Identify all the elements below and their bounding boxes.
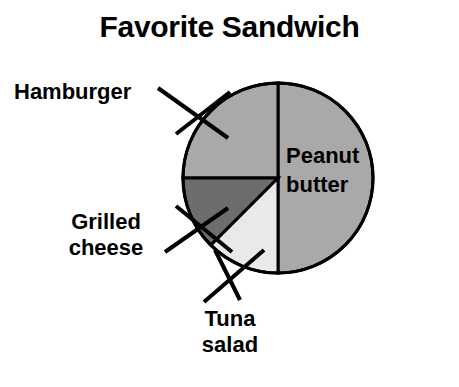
slice-label-tuna-salad-line1: Tuna [170, 306, 290, 332]
slice-label-tuna-salad-line2: salad [170, 332, 290, 358]
slice-label-hamburger-line1: Hamburger [14, 79, 131, 105]
slice-label-peanut-butter: Peanut butter [286, 141, 359, 199]
slice-label-hamburger: Hamburger [14, 79, 131, 105]
slice-label-grilled-cheese-line2: cheese [46, 235, 166, 261]
slice-label-tuna-salad: Tuna salad [170, 306, 290, 358]
slice-label-grilled-cheese-line1: Grilled [46, 209, 166, 235]
slice-label-peanut-butter-line1: Peanut [286, 141, 359, 170]
pie-chart-figure: Favorite Sandwich Hamburger Grilled chee… [0, 0, 459, 387]
slice-label-peanut-butter-line2: butter [286, 170, 359, 199]
slice-label-grilled-cheese: Grilled cheese [46, 209, 166, 261]
